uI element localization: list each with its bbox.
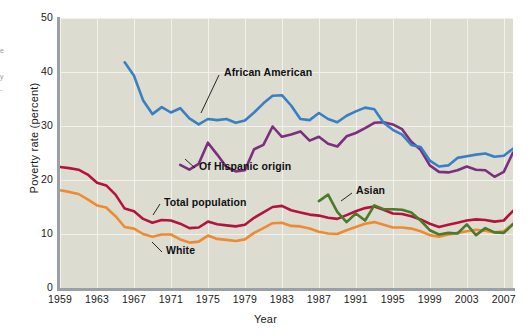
y-tick-40: 40 (1, 65, 53, 77)
x-tick-1967: 1967 (114, 293, 154, 305)
series-line-total-population (60, 167, 513, 228)
x-tick-1983: 1983 (262, 293, 302, 305)
x-tick-1959: 1959 (40, 293, 80, 305)
annotation-african-american: African American (224, 66, 312, 78)
x-axis-label: Year (0, 313, 531, 325)
x-tick-1971: 1971 (151, 293, 191, 305)
y-tick-0: 0 (1, 281, 53, 293)
annotation-total-population: Total population (164, 196, 246, 208)
series-line-african-american (125, 62, 513, 166)
x-tick-1987: 1987 (299, 293, 339, 305)
x-tick-2007: 2007 (484, 293, 524, 305)
x-tick-1979: 1979 (225, 293, 265, 305)
x-tick-1999: 1999 (410, 293, 450, 305)
annotation-of-hispanic-origin: Of Hispanic origin (199, 160, 291, 172)
y-tick-20: 20 (1, 173, 53, 185)
y-axis-ticks: 01020304050 (0, 0, 53, 336)
series-lines (60, 18, 513, 288)
y-tick-10: 10 (1, 227, 53, 239)
x-tick-1991: 1991 (336, 293, 376, 305)
poverty-rate-chart: e y - Poverty rate (percent) Year 010203… (0, 0, 531, 336)
y-tick-50: 50 (1, 11, 53, 23)
plot-area: African AmericanOf Hispanic originTotal … (60, 18, 513, 288)
x-tick-1975: 1975 (188, 293, 228, 305)
annotation-asian: Asian (356, 184, 385, 196)
x-tick-1963: 1963 (77, 293, 117, 305)
x-tick-2003: 2003 (447, 293, 487, 305)
x-tick-1995: 1995 (373, 293, 413, 305)
annotation-white: White (166, 244, 195, 256)
x-axis-line (57, 288, 515, 291)
y-tick-30: 30 (1, 119, 53, 131)
